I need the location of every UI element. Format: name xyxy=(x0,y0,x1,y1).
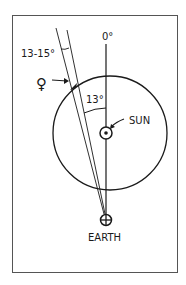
venus-arrow-head xyxy=(64,78,69,84)
sun-symbol-dot xyxy=(104,131,108,135)
sight-line-outer xyxy=(56,28,104,214)
sun-angle-arc xyxy=(84,108,106,113)
sight-line-inner xyxy=(67,30,105,214)
sun-angle-label: 13° xyxy=(86,94,104,105)
sun-label: SUN xyxy=(129,115,150,126)
venus-elongation-diagram: 0° 13-15° 13° ♀ SUN EARTH xyxy=(0,0,186,285)
venus-range-arc xyxy=(61,48,69,49)
zero-degree-label: 0° xyxy=(102,31,113,42)
venus-range-label: 13-15° xyxy=(21,48,55,59)
earth-label: EARTH xyxy=(88,232,121,243)
venus-symbol: ♀ xyxy=(36,75,47,93)
